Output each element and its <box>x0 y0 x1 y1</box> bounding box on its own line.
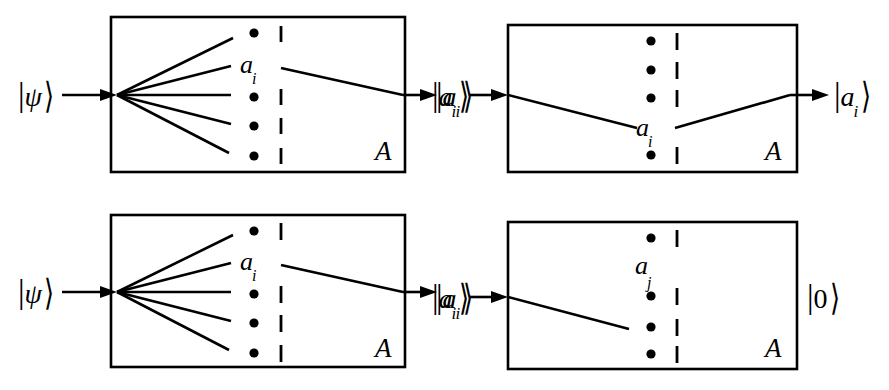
ket-symbol: ψ <box>25 280 42 308</box>
branch-ray <box>117 263 231 292</box>
apparatus-letter: A <box>375 335 392 362</box>
ket-bar: | <box>18 79 25 112</box>
ket-angle: ⟩ <box>44 275 54 311</box>
detector-dot <box>646 65 655 74</box>
detector-dot <box>249 92 258 101</box>
branch-ray-group <box>117 235 233 350</box>
ket-symbol: a <box>443 285 457 313</box>
output-arrow-head <box>812 89 829 101</box>
detector-dot <box>646 349 655 358</box>
detector-dot <box>646 291 655 300</box>
panel-top-right: A ai |ai⟩ |ai⟩ <box>432 0 889 195</box>
ket-subscript: i <box>456 304 461 323</box>
branch-ray-group <box>117 38 233 153</box>
incoming-ray <box>508 95 637 128</box>
incoming-ray <box>508 297 629 329</box>
input-ket-label: |ψ⟩ <box>18 273 56 309</box>
ket-bar: | <box>807 281 814 314</box>
eigenvalue-label: ai <box>636 115 653 145</box>
input-arrow-head <box>100 89 117 101</box>
ket-symbol: a <box>841 83 855 111</box>
ket-symbol: a <box>443 83 457 111</box>
output-ket-label: |ai⟩ <box>834 76 873 116</box>
ket-bar: | <box>18 276 25 309</box>
eigenvalue-subscript: j <box>647 274 651 291</box>
detector-dot <box>646 233 655 242</box>
detector-dot <box>249 151 258 160</box>
branch-ray <box>117 38 233 95</box>
detector-dot <box>249 28 258 37</box>
panel-top-right-graphics <box>432 0 889 195</box>
apparatus-letter: A <box>375 138 392 165</box>
panel-bottom-right: A aj |ai⟩ |0⟩ <box>432 195 889 390</box>
input-arrow-head <box>100 286 117 298</box>
branch-ray <box>117 235 233 292</box>
detector-dot <box>646 150 655 159</box>
output-ket-label: |0⟩ <box>807 278 842 314</box>
ket-symbol: 0 <box>814 285 828 313</box>
ket-bar: | <box>436 79 443 112</box>
ket-angle: ⟩ <box>44 78 54 114</box>
eigenvalue-label: aj <box>635 253 652 283</box>
detector-dot <box>646 36 655 45</box>
eigenvalue-label: ai <box>240 52 257 82</box>
ket-subscript: i <box>456 102 461 121</box>
quantum-measurement-figure: A ai |ψ⟩ <box>0 0 889 390</box>
branch-ray <box>117 95 229 153</box>
detector-dot <box>249 226 258 235</box>
apparatus-letter: A <box>765 335 782 362</box>
detector-dot <box>249 348 258 357</box>
eigenvalue-subscript: i <box>252 70 256 87</box>
apparatus-letter: A <box>765 138 782 165</box>
selected-branch-line <box>281 265 403 292</box>
detector-dot <box>646 322 655 331</box>
eigenvalue-label: ai <box>240 249 257 279</box>
ket-angle: ⟩ <box>830 280 840 316</box>
ket-angle: ⟩ <box>463 78 473 114</box>
input-ket-label: |ψ⟩ <box>18 76 56 112</box>
eigenvalue-subscript: i <box>252 267 256 284</box>
detector-dot <box>249 318 258 327</box>
ket-angle: ⟩ <box>861 78 871 114</box>
branch-ray <box>117 95 231 124</box>
ket-subscript: i <box>854 102 859 121</box>
branch-ray <box>117 66 231 95</box>
detector-dot <box>646 93 655 102</box>
branch-ray <box>117 292 229 350</box>
outgoing-ray <box>675 95 790 128</box>
detector-dot-column <box>249 28 258 160</box>
detector-dot <box>249 121 258 130</box>
input-arrow-head <box>491 291 508 303</box>
panel-top-left: A ai |ψ⟩ <box>0 0 460 195</box>
selected-branch-line <box>281 68 403 95</box>
panel-bottom-left: A ai |ψ⟩ <box>0 195 460 390</box>
detector-dot <box>249 289 258 298</box>
ket-symbol: ψ <box>25 83 42 111</box>
ket-bar: | <box>436 281 443 314</box>
eigenvalue-subscript: i <box>648 133 652 150</box>
intermediate-ket-label-bottom: |ai⟩ <box>436 278 475 318</box>
intermediate-ket-label-top: |ai⟩ <box>436 76 475 116</box>
input-arrow-head <box>491 89 508 101</box>
ket-angle: ⟩ <box>463 280 473 316</box>
branch-ray <box>117 292 231 321</box>
ket-bar: | <box>834 79 841 112</box>
